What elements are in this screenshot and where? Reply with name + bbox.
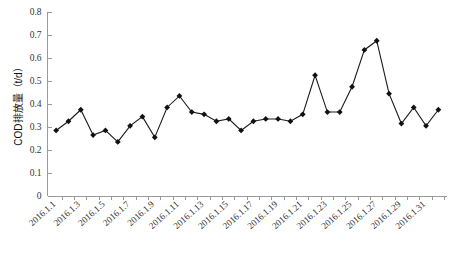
- y-tick-label: 0.7: [30, 30, 42, 40]
- y-axis-title: COD排放量（t/d）: [12, 62, 24, 145]
- y-tick-labels: 0.80.70.60.50.40.30.20.10: [30, 7, 42, 201]
- y-tick-label: 0.5: [30, 76, 42, 86]
- y-tick-label: 0.4: [30, 99, 42, 109]
- cod-emission-line-chart: 0.80.70.60.50.40.30.20.10 2016.1.12016.1…: [0, 0, 455, 258]
- y-tick-label: 0.6: [30, 53, 42, 63]
- y-tick-label: 0.3: [30, 122, 42, 132]
- y-tick-label: 0: [37, 191, 42, 201]
- y-tick-label: 0.1: [30, 168, 42, 178]
- chart-canvas: 0.80.70.60.50.40.30.20.10 2016.1.12016.1…: [0, 0, 455, 258]
- y-tick-label: 0.8: [30, 7, 42, 17]
- y-tick-label: 0.2: [30, 145, 42, 155]
